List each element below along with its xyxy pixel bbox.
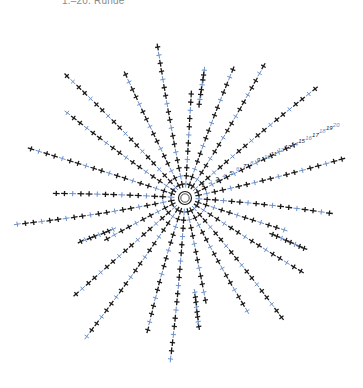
stitch-symbol: [28, 146, 34, 151]
stitch-symbol: [166, 108, 171, 115]
stitch-symbol: [326, 211, 333, 216]
stitch-symbol: [130, 178, 136, 183]
stitch-symbol: [194, 204, 200, 208]
stitch-symbol: [224, 160, 229, 164]
stitch-symbol: [102, 192, 109, 197]
stitch-symbol: [190, 232, 195, 239]
stitch-symbol: [230, 154, 235, 158]
stitch-symbol: [189, 224, 194, 231]
stitch-symbol: [175, 290, 180, 297]
stitch-symbol: [137, 181, 143, 186]
stitch-symbol: [111, 233, 117, 238]
stitch-symbol: [293, 102, 298, 106]
stitch-symbol: [194, 189, 200, 194]
stitch-symbol: [242, 99, 246, 105]
stitch-symbol: [157, 167, 162, 172]
stitch-symbol: [63, 216, 70, 221]
stitch-symbol: [173, 307, 178, 314]
stitch-symbol: [106, 171, 112, 176]
stitch-symbol: [193, 215, 198, 221]
stitch-symbol: [191, 183, 195, 189]
round-label: 8: [250, 160, 254, 166]
stitch-symbol: [147, 319, 152, 326]
stitch-symbol: [245, 269, 249, 274]
stitch-symbol: [206, 127, 211, 133]
stitch-symbol: [71, 79, 76, 84]
stitch-symbol: [273, 225, 279, 230]
stitch-symbol: [82, 91, 87, 96]
stitch-symbol: [127, 193, 134, 198]
stitch-symbol: [163, 92, 168, 99]
stitch-symbol: [246, 92, 250, 98]
stitch-symbol: [117, 151, 123, 155]
stitch-symbol: [77, 121, 83, 125]
stitch-symbol: [245, 200, 252, 205]
stitch-symbol: [208, 213, 214, 217]
stitch-symbol: [143, 170, 149, 174]
stitch-symbol: [158, 60, 163, 67]
stitch-symbol: [162, 173, 167, 178]
stitch-symbol: [174, 298, 179, 305]
stitch-symbol: [208, 156, 212, 162]
stitch-symbol: [180, 225, 185, 232]
stitch-symbol: [140, 217, 146, 222]
stitch-symbol: [249, 239, 255, 243]
stitch-symbol: [241, 301, 246, 307]
stitch-symbol: [71, 215, 78, 220]
stitch-symbol: [236, 149, 241, 153]
stitch-symbol: [83, 163, 89, 168]
stitch-symbol: [298, 269, 304, 273]
stitch-symbol: [145, 327, 150, 334]
stitch-symbol: [169, 125, 174, 132]
stitch-symbol: [129, 274, 133, 280]
stitch-symbol: [203, 218, 207, 223]
round-label: 1: [202, 182, 205, 188]
stitch-symbol: [59, 156, 65, 161]
stitch-symbol: [285, 205, 292, 210]
stitch-symbol: [235, 230, 241, 234]
stitch-symbol: [197, 265, 202, 272]
stitch-symbol: [260, 288, 264, 293]
stitch-symbol: [279, 315, 283, 320]
stitch-symbol: [117, 125, 122, 130]
stitch-symbol: [129, 243, 134, 248]
stitch-symbol: [280, 112, 285, 116]
stitch-symbol: [189, 91, 194, 98]
stitch-symbol: [124, 281, 128, 287]
stitch-symbol: [255, 133, 260, 137]
stitch-symbol: [208, 244, 213, 250]
stitch-symbol: [270, 301, 274, 306]
stitch-symbol: [176, 165, 181, 172]
stitch-symbol: [229, 250, 233, 255]
stitch-symbol: [151, 131, 156, 137]
stitch-symbol: [151, 161, 156, 166]
stitch-symbol: [259, 178, 266, 183]
stitch-symbol: [201, 143, 206, 149]
stitch-symbol: [177, 266, 182, 273]
stitch-symbol: [234, 213, 240, 218]
stitch-symbol: [161, 189, 167, 194]
stitch-symbol: [212, 251, 217, 257]
stitch-symbol: [110, 192, 117, 197]
stitch-symbol: [126, 225, 132, 230]
stitch-symbol: [167, 117, 172, 124]
stitch-symbol: [159, 194, 166, 199]
stitch-symbol: [277, 256, 283, 260]
stitch-symbol: [189, 207, 194, 213]
stitch-symbol: [243, 182, 250, 187]
stitch-symbol: [157, 279, 162, 286]
round-label: 20: [332, 122, 340, 128]
stitch-symbol: [187, 115, 192, 122]
stitch-symbol: [85, 334, 89, 340]
stitch-symbol: [137, 165, 143, 169]
stitch-symbol: [253, 78, 257, 84]
stitch-symbol: [162, 153, 167, 159]
stitch-symbol: [127, 79, 132, 85]
stitch-symbol: [250, 85, 254, 91]
stitch-symbol: [94, 102, 99, 107]
stitch-symbol: [161, 227, 165, 233]
stitch-symbol: [221, 221, 227, 225]
stitch-symbol: [123, 71, 128, 77]
stitch-symbol: [133, 221, 139, 226]
stitch-symbol: [153, 295, 158, 302]
